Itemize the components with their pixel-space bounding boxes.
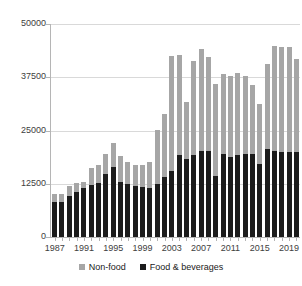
bar-segment-non-food-2012 — [235, 73, 240, 155]
x-axis-tick-1993 — [99, 238, 100, 241]
y-axis-label-12500: 12500 — [2, 179, 46, 188]
bar-2001[interactable] — [155, 24, 160, 237]
x-axis-tick-2001 — [157, 238, 158, 241]
bar-1998[interactable] — [133, 24, 138, 237]
x-axis-label-2007: 2007 — [186, 243, 216, 253]
x-axis-tick-1988 — [62, 238, 63, 241]
x-axis-tick-2015 — [260, 238, 261, 241]
bar-2020[interactable] — [294, 24, 299, 237]
y-axis-label-0: 0 — [2, 232, 46, 241]
x-axis-tick-2014 — [252, 238, 253, 241]
bar-2011[interactable] — [228, 24, 233, 237]
stacked-bar-chart: 012500250003750050000 198719911995199920… — [0, 0, 302, 286]
legend-item-food-beverages[interactable]: Food & beverages — [140, 262, 224, 272]
x-axis-tick-2013 — [245, 238, 246, 241]
legend-item-non-food[interactable]: Non-food — [79, 262, 126, 272]
x-axis-label-2019: 2019 — [274, 243, 302, 253]
x-axis-tick-1997 — [128, 238, 129, 241]
bar-2016[interactable] — [265, 24, 270, 237]
bar-segment-non-food-2014 — [250, 85, 255, 154]
bar-segment-non-food-1989 — [67, 186, 72, 196]
bar-segment-non-food-2019 — [287, 47, 292, 153]
bar-segment-non-food-2018 — [279, 47, 284, 152]
bar-2004[interactable] — [177, 24, 182, 237]
x-axis-line — [50, 237, 300, 238]
bar-segment-food-2011 — [228, 157, 233, 238]
bar-segment-food-1987 — [52, 202, 57, 237]
bar-segment-food-2006 — [191, 155, 196, 237]
bar-2005[interactable] — [184, 24, 189, 237]
x-axis-tick-1989 — [69, 238, 70, 241]
bar-segment-food-1988 — [59, 202, 64, 237]
bar-segment-non-food-1996 — [118, 156, 123, 182]
bar-2017[interactable] — [272, 24, 277, 237]
x-axis-tick-2000 — [150, 238, 151, 241]
bar-1987[interactable] — [52, 24, 57, 237]
bar-1997[interactable] — [125, 24, 130, 237]
bar-1990[interactable] — [74, 24, 79, 237]
bar-segment-non-food-2008 — [206, 57, 211, 151]
x-axis-tick-1995 — [113, 238, 114, 241]
bar-2008[interactable] — [206, 24, 211, 237]
plot-area — [51, 24, 300, 237]
bar-segment-food-1994 — [103, 174, 108, 237]
bar-segment-food-2008 — [206, 151, 211, 237]
bar-segment-non-food-1987 — [52, 194, 57, 202]
bar-segment-food-1993 — [96, 183, 101, 237]
x-axis-tick-1999 — [143, 238, 144, 241]
bar-segment-food-2013 — [243, 154, 248, 237]
bar-segment-food-2001 — [155, 184, 160, 237]
x-axis-tick-1991 — [84, 238, 85, 241]
bar-segment-food-1997 — [125, 184, 130, 237]
bar-segment-food-2007 — [199, 151, 204, 237]
bar-2013[interactable] — [243, 24, 248, 237]
bar-1993[interactable] — [96, 24, 101, 237]
bar-segment-non-food-1998 — [133, 165, 138, 186]
bar-segment-non-food-2009 — [213, 84, 218, 176]
bar-segment-non-food-1988 — [59, 194, 64, 202]
bar-2007[interactable] — [199, 24, 204, 237]
x-axis-tick-1996 — [121, 238, 122, 241]
bar-2009[interactable] — [213, 24, 218, 237]
bar-2019[interactable] — [287, 24, 292, 237]
bar-2000[interactable] — [147, 24, 152, 237]
bar-1995[interactable] — [111, 24, 116, 237]
bar-1989[interactable] — [67, 24, 72, 237]
bar-segment-non-food-1993 — [96, 165, 101, 184]
bar-2018[interactable] — [279, 24, 284, 237]
bar-1991[interactable] — [81, 24, 86, 237]
bar-segment-non-food-1994 — [103, 154, 108, 174]
bar-1988[interactable] — [59, 24, 64, 237]
bar-segment-food-1995 — [111, 167, 116, 237]
bar-2015[interactable] — [257, 24, 262, 237]
bar-1994[interactable] — [103, 24, 108, 237]
x-axis-label-2003: 2003 — [157, 243, 187, 253]
bar-segment-non-food-2001 — [155, 130, 160, 185]
legend-label-non-food: Non-food — [89, 262, 126, 272]
bar-2003[interactable] — [169, 24, 174, 237]
bar-segment-food-2010 — [221, 154, 226, 237]
x-axis-label-1999: 1999 — [128, 243, 158, 253]
bar-segment-non-food-2006 — [191, 61, 196, 155]
bar-1999[interactable] — [140, 24, 145, 237]
bar-1996[interactable] — [118, 24, 123, 237]
y-axis-tick-0 — [46, 237, 50, 238]
bar-segment-food-2015 — [257, 164, 262, 237]
x-axis-tick-1987 — [55, 238, 56, 241]
bar-2010[interactable] — [221, 24, 226, 237]
bar-2014[interactable] — [250, 24, 255, 237]
bar-2012[interactable] — [235, 24, 240, 237]
bar-2002[interactable] — [162, 24, 167, 237]
y-axis-label-25000: 25000 — [2, 126, 46, 135]
bar-2006[interactable] — [191, 24, 196, 237]
y-axis-label-37500: 37500 — [2, 72, 46, 81]
x-axis-tick-1994 — [106, 238, 107, 241]
legend-swatch-non-food — [79, 264, 85, 270]
bar-1992[interactable] — [89, 24, 94, 237]
bar-segment-non-food-1995 — [111, 143, 116, 167]
bar-segment-non-food-2002 — [162, 114, 167, 177]
bar-segment-food-2002 — [162, 177, 167, 237]
x-axis-label-1995: 1995 — [98, 243, 128, 253]
bar-segment-food-2014 — [250, 154, 255, 237]
y-axis-label-50000: 50000 — [2, 19, 46, 28]
